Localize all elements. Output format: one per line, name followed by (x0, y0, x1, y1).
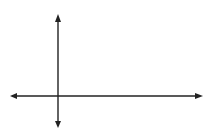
y-axis-arrow-icon (55, 14, 61, 22)
y-axis-down-arrow-icon (55, 121, 61, 128)
x-axis-arrow-icon (195, 93, 203, 99)
axes (10, 14, 203, 128)
x-axis-left-arrow-icon (10, 93, 17, 99)
coordinate-plane (0, 0, 213, 139)
